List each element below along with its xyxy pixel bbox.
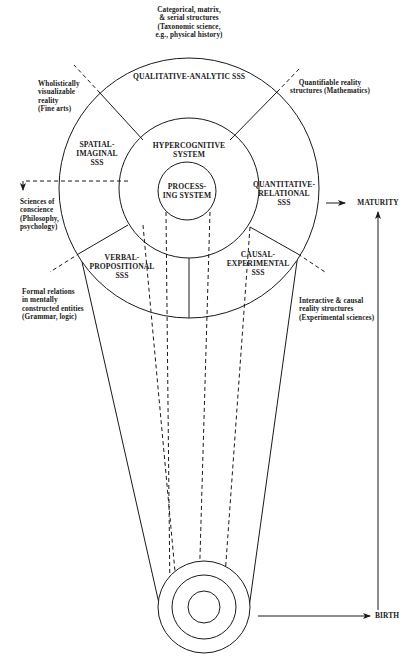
divider-ext-lower-left — [50, 253, 80, 272]
annotation-top-line: (Taxonomic science, — [155, 23, 222, 31]
annotation-lower-right-line: reality structures — [299, 305, 374, 313]
core-label-line: PROCESS- — [163, 182, 211, 191]
annotation-upper-left-line: Wholistically — [38, 80, 80, 88]
segment-label-line: SSS — [253, 198, 315, 207]
segment-label-line: EXPERIMENTAL — [227, 259, 290, 268]
annotation-top-line: & serial structures — [155, 14, 222, 22]
annotation-left: Sciences of conscience (Philosophy, psyc… — [20, 198, 59, 232]
annotation-upper-right-line: Quantifiable reality — [290, 79, 370, 87]
annotation-upper-right-line: structures (Mathematics) — [290, 87, 370, 95]
annotation-upper-left-line: (Fine arts) — [38, 105, 80, 113]
segment-label-line: IMAGINAL — [76, 149, 117, 158]
annotation-lower-left-line: in mentally — [22, 296, 84, 304]
core-label-line: ING SYSTEM — [163, 191, 211, 200]
annotation-upper-right: Quantifiable reality structures (Mathema… — [290, 79, 370, 96]
annotation-lower-left-line: (Grammar, logic) — [22, 313, 84, 321]
birth-label: BIRTH — [375, 612, 399, 620]
segment-label-line: SSS — [76, 158, 117, 167]
annotation-left-line: conscience — [20, 206, 59, 214]
segment-label-line: SPATIAL- — [76, 140, 117, 149]
hypercognitive-system-label: HYPERCOGNITIVE SYSTEM — [153, 141, 225, 159]
annotation-lower-left-line: constructed entities — [22, 305, 84, 313]
annotation-left-line: psychology) — [20, 223, 59, 231]
segment-causal-experimental: CAUSAL- EXPERIMENTAL SSS — [227, 250, 290, 277]
segment-label-line: PROPOSITIONAL — [89, 262, 154, 271]
annotation-top: Categorical, matrix, & serial structures… — [155, 6, 222, 40]
core-label-line: HYPERCOGNITIVE — [153, 141, 225, 150]
divider-ext-lower-right — [298, 254, 325, 272]
annotation-upper-left-line: visualizable — [38, 88, 80, 96]
annotation-upper-left: Wholistically visualizable reality (Fine… — [38, 80, 80, 114]
annotation-lower-left-line: Formal relations — [22, 288, 84, 296]
segment-spatial-imaginal: SPATIAL- IMAGINAL SSS — [76, 140, 117, 167]
annotation-upper-left-line: reality — [38, 97, 80, 105]
annotation-left-line: Sciences of — [20, 198, 59, 206]
annotation-lower-right-line: Interactive & causal — [299, 297, 374, 305]
segment-label-line: VERBAL- — [89, 253, 154, 262]
annotation-top-line: Categorical, matrix, — [155, 6, 222, 14]
funnel-right-line — [249, 254, 298, 608]
annotation-lower-right: Interactive & causal reality structures … — [299, 297, 374, 322]
annotation-left-line: (Philosophy, — [20, 215, 59, 223]
segment-label-line: QUANTITATIVE- — [253, 180, 315, 189]
segment-label-line: CAUSAL- — [227, 250, 290, 259]
segment-label-line: RELATIONAL — [253, 189, 315, 198]
segment-label-line: SSS — [227, 268, 290, 277]
segment-qualitative-analytic: QUALITATIVE-ANALYTIC SSS — [133, 72, 245, 81]
segment-verbal-propositional: VERBAL- PROPOSITIONAL SSS — [89, 253, 154, 280]
segment-quantitative-relational: QUANTITATIVE- RELATIONAL SSS — [253, 180, 315, 207]
maturity-label: MATURITY — [357, 199, 398, 207]
segment-label-line: QUALITATIVE-ANALYTIC SSS — [133, 72, 245, 81]
annotation-lower-right-line: (Experimental sciences) — [299, 314, 374, 322]
processing-system-label: PROCESS- ING SYSTEM — [163, 182, 211, 200]
segment-label-line: SSS — [89, 271, 154, 280]
core-label-line: SYSTEM — [153, 150, 225, 159]
annotation-lower-left: Formal relations in mentally constructed… — [22, 288, 84, 322]
annotation-top-line: e.g., physical history) — [155, 31, 222, 39]
